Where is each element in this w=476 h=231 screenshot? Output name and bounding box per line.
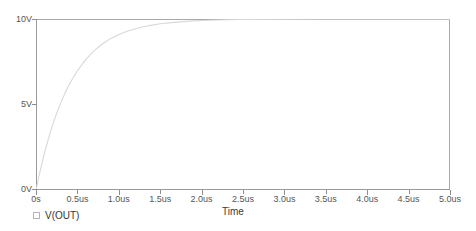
x-tick-label-0s: 0s [16, 194, 56, 204]
legend-marker-icon [33, 212, 40, 219]
x-tick-label-3-5us: 3.5us [306, 194, 346, 204]
y-tick-mark-10v [32, 19, 37, 20]
x-tick-label-1-0us: 1.0us [99, 194, 139, 204]
x-tick-label-3-0us: 3.0us [264, 194, 304, 204]
x-tick-label-0-5us: 0.5us [57, 194, 97, 204]
y-tick-label-5v: 5V [21, 100, 32, 109]
waveform-curve-canvas [36, 19, 450, 190]
x-axis-title: Time [222, 206, 244, 217]
x-tick-label-2-0us: 2.0us [182, 194, 222, 204]
y-tick-label-10v: 10V [16, 15, 32, 24]
y-tick-mark-5v [32, 104, 37, 105]
x-tick-label-1-5us: 1.5us [140, 194, 180, 204]
series-v-out-line [36, 19, 450, 190]
waveform-viewer: 10V 5V 0V 0s0.5us1.0us1.5us2.0us2.5us3.0… [0, 0, 476, 231]
x-tick-label-5-0us: 5.0us [430, 194, 470, 204]
x-tick-label-4-5us: 4.5us [389, 194, 429, 204]
legend-label-v-out: V(OUT) [45, 210, 79, 221]
y-tick-label-0v: 0V [21, 185, 32, 194]
x-tick-label-4-0us: 4.0us [347, 194, 387, 204]
x-tick-label-2-5us: 2.5us [223, 194, 263, 204]
legend[interactable]: V(OUT) [33, 210, 79, 221]
